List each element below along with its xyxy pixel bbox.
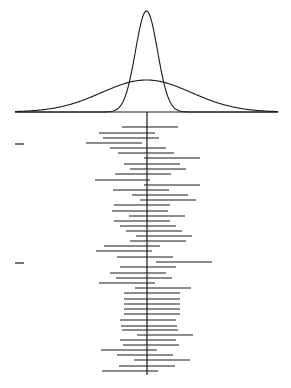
confidence-interval-diagram (0, 0, 291, 388)
narrow-normal-curve (15, 11, 278, 112)
left-tick-marks (15, 144, 24, 263)
wide-normal-curve (15, 80, 278, 112)
interval-segments (86, 127, 212, 371)
distribution-curves (15, 11, 278, 112)
diagram-canvas (0, 0, 291, 388)
